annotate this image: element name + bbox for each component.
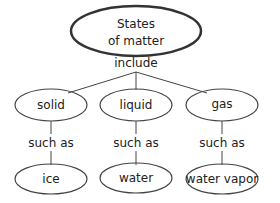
link-gas: such as: [182, 136, 262, 150]
example-water: water: [96, 171, 176, 185]
root-ellipse: [71, 6, 201, 56]
example-ice: ice: [11, 172, 91, 186]
example-water-vapor: water vapor: [182, 172, 262, 186]
root-node-line2: of matter: [86, 34, 186, 48]
state-gas: gas: [182, 97, 262, 111]
link-solid: such as: [11, 136, 91, 150]
root-link-label: include: [96, 56, 176, 70]
link-liquid: such as: [96, 136, 176, 150]
state-solid: solid: [11, 98, 91, 112]
state-liquid: liquid: [96, 98, 176, 112]
root-node-line1: States: [96, 17, 176, 31]
